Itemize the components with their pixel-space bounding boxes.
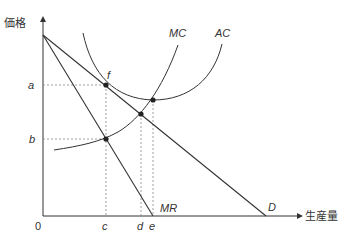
price-b-label: b [29,133,35,145]
price-a-label: a [28,79,34,91]
origin-label: 0 [35,220,41,232]
x-axis-label: 生産量 [305,209,338,223]
ac-label: AC [214,27,230,39]
y-axis-label: 価格 [4,16,26,30]
point-d-mc [138,111,143,116]
mr-label: MR [160,202,177,214]
point-f [103,82,108,87]
qty-c-label: c [102,220,108,232]
ac-curve [83,33,222,100]
demand-curve [43,35,266,216]
point-f-label: f [107,69,111,81]
mc-label: MC [169,27,186,39]
demand-label: D [268,201,276,213]
qty-d-label: d [137,220,144,232]
point-mr-mc [103,136,108,141]
mc-curve [54,45,178,150]
point-ac-mc [150,97,155,102]
monopoly-diagram: 価格 生産量 0 MC AC MR D a b c d e f [0,0,359,243]
qty-e-label: e [149,220,155,232]
guide-lines [43,85,153,216]
mr-curve [43,35,153,216]
